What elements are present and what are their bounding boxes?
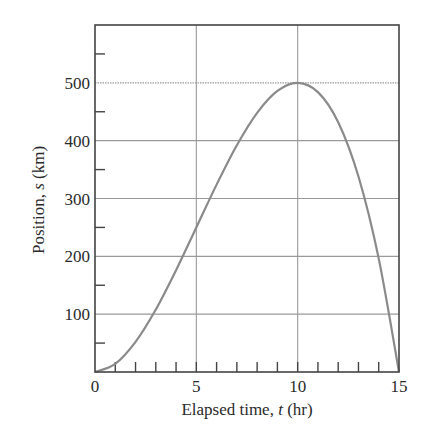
y-axis-title: Position, s (km) (29, 146, 48, 254)
x-tick-label: 0 (91, 377, 100, 396)
y-tick-label: 100 (65, 305, 91, 324)
grid-lines (95, 25, 399, 372)
x-tick-label: 5 (192, 377, 201, 396)
y-tick-label: 200 (65, 247, 91, 266)
y-tick-label: 300 (65, 190, 91, 209)
position-time-chart: 051015 100200300400500 Elapsed time, t (… (0, 0, 432, 438)
position-curve (95, 83, 399, 372)
y-tick-labels: 100200300400500 (65, 74, 91, 324)
x-axis-title: Elapsed time, t (hr) (181, 400, 312, 419)
axis-ticks (95, 54, 379, 372)
y-tick-label: 500 (65, 74, 91, 93)
x-tick-labels: 051015 (91, 377, 408, 396)
y-tick-label: 400 (65, 132, 91, 151)
x-tick-label: 10 (289, 377, 306, 396)
x-tick-label: 15 (391, 377, 408, 396)
